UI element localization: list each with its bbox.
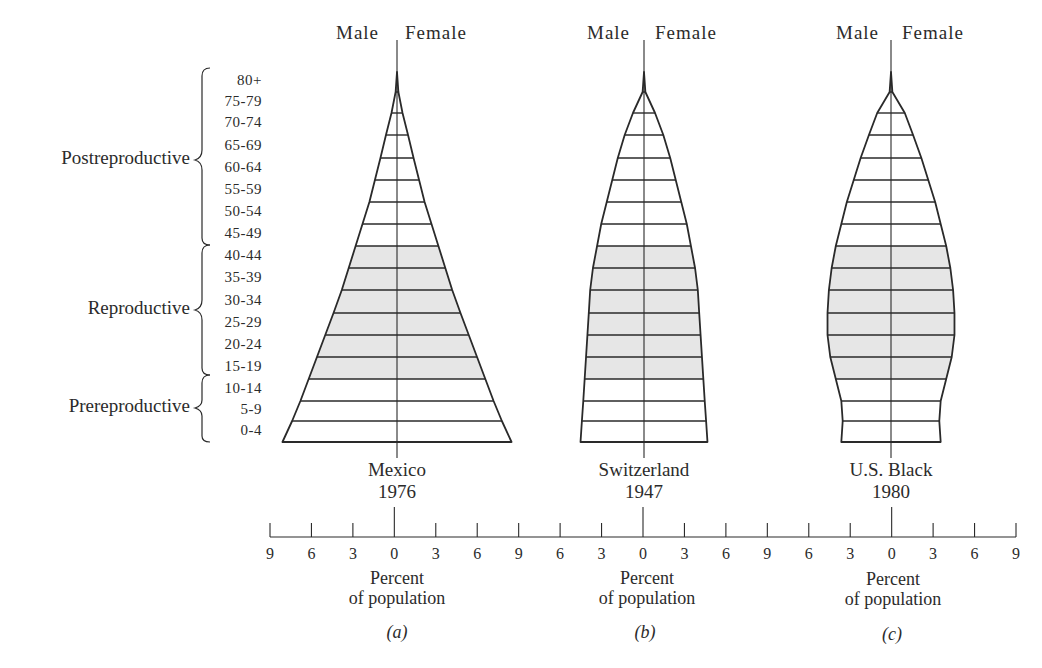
axis-tick-label: 6 [716,545,736,563]
xlabel-a: Percent of population [307,568,487,608]
xlabel-c-line1: Percent [803,569,983,589]
axis-tick-label: 9 [1006,545,1026,563]
age-label: 25-29 [212,314,262,331]
country-label-b: Switzerland 1947 [564,459,724,503]
axis-tick-label: 9 [260,545,280,563]
age-label: 0-4 [212,422,262,439]
female-label-c: Female [902,22,964,44]
axis-tick-label: 6 [467,545,487,563]
axis-tick-label: 6 [799,545,819,563]
age-label: 40-44 [212,247,262,264]
male-label-c: Male [836,22,879,44]
panel-label-b: (b) [615,622,675,643]
age-label: 50-54 [212,203,262,220]
stage-label-prereproductive: Prereproductive [0,395,190,417]
male-label-b: Male [587,22,630,44]
age-label: 80+ [212,72,262,89]
brace-prereproductive [195,375,210,442]
axis-tick-label: 6 [301,545,321,563]
axis-tick-label: 3 [343,545,363,563]
age-label: 15-19 [212,358,262,375]
age-label: 20-24 [212,336,262,353]
percent-axis [270,507,1016,537]
brace-reproductive [195,245,210,375]
panel-label-c: (c) [862,624,922,645]
age-label: 30-34 [212,292,262,309]
xlabel-b: Percent of population [557,568,737,608]
stage-braces [195,68,210,442]
axis-tick-label: 0 [384,545,404,563]
female-label-b: Female [655,22,717,44]
age-label: 10-14 [212,380,262,397]
pyramid-c [828,40,955,458]
brace-postreproductive [195,68,210,245]
female-label-a: Female [405,22,467,44]
age-label: 70-74 [212,114,262,131]
country-name-a: Mexico [317,459,477,481]
male-label-a: Male [336,22,379,44]
axis-tick-label: 9 [509,545,529,563]
axis-tick-label: 3 [674,545,694,563]
xlabel-c-line2: of population [803,589,983,609]
country-name-c: U.S. Black [811,459,971,481]
age-structure-figure: Male Female Male Female Male Female 80+7… [0,0,1042,668]
axis-tick-label: 6 [550,545,570,563]
axis-tick-label: 3 [923,545,943,563]
axis-tick-label: 3 [426,545,446,563]
pyramid-b [581,40,708,458]
xlabel-b-line1: Percent [557,568,737,588]
country-label-a: Mexico 1976 [317,459,477,503]
stage-label-postreproductive: Postreproductive [0,147,190,169]
xlabel-a-line2: of population [307,588,487,608]
pyramid-chart [0,0,1042,668]
age-label: 35-39 [212,269,262,286]
panel-label-a: (a) [367,622,427,643]
xlabel-c: Percent of population [803,569,983,609]
xlabel-a-line1: Percent [307,568,487,588]
country-year-a: 1976 [317,481,477,503]
axis-tick-label: 0 [633,545,653,563]
country-label-c: U.S. Black 1980 [811,459,971,503]
axis-tick-label: 0 [882,545,902,563]
age-label: 5-9 [212,401,262,418]
stage-label-reproductive: Reproductive [0,297,190,319]
age-label: 75-79 [212,93,262,110]
axis-tick-label: 9 [757,545,777,563]
age-label: 55-59 [212,181,262,198]
axis-tick-label: 6 [965,545,985,563]
pyramid-a [282,40,511,458]
xlabel-b-line2: of population [557,588,737,608]
pyramids-layer [282,40,954,458]
country-name-b: Switzerland [564,459,724,481]
axis-tick-label: 3 [592,545,612,563]
age-label: 45-49 [212,225,262,242]
age-label: 65-69 [212,137,262,154]
axis-tick-label: 3 [840,545,860,563]
country-year-b: 1947 [564,481,724,503]
age-label: 60-64 [212,159,262,176]
country-year-c: 1980 [811,481,971,503]
